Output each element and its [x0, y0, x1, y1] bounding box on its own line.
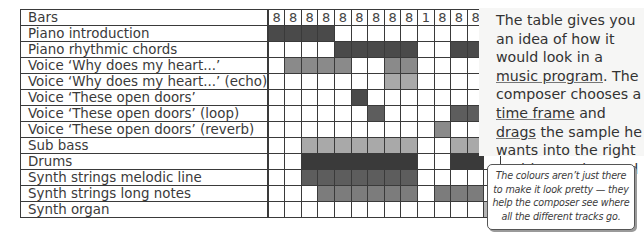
header-row: Bars88888888818888 — [21, 10, 501, 26]
empty-cell — [335, 202, 352, 218]
empty-cell — [285, 154, 302, 170]
empty-cell — [401, 202, 418, 218]
track-label: Voice ‘These open doors’ (loop) — [21, 106, 269, 122]
empty-cell — [268, 42, 285, 58]
filled-cell — [451, 186, 468, 202]
empty-cell — [418, 106, 435, 122]
bar-length-header: 8 — [401, 10, 418, 26]
filled-cell — [351, 154, 368, 170]
filled-cell — [335, 58, 352, 74]
filled-cell — [384, 170, 401, 186]
empty-cell — [301, 202, 318, 218]
bars-header-label: Bars — [21, 10, 269, 26]
empty-cell — [268, 170, 285, 186]
empty-cell — [368, 122, 385, 138]
empty-cell — [434, 138, 451, 154]
track-row: Synth strings long notes — [21, 186, 501, 202]
empty-cell — [351, 122, 368, 138]
empty-cell — [351, 74, 368, 90]
empty-cell — [434, 202, 451, 218]
track-label: Piano rhythmic chords — [21, 42, 269, 58]
filled-cell — [318, 26, 335, 42]
empty-cell — [268, 90, 285, 106]
empty-cell — [401, 106, 418, 122]
track-label: Synth strings melodic line — [21, 170, 269, 186]
empty-cell — [368, 58, 385, 74]
filled-cell — [318, 154, 335, 170]
empty-cell — [335, 74, 352, 90]
empty-cell — [301, 106, 318, 122]
filled-cell — [335, 138, 352, 154]
track-row: Drums — [21, 154, 501, 170]
filled-cell — [318, 138, 335, 154]
empty-cell — [467, 202, 484, 218]
filled-cell — [301, 138, 318, 154]
filled-cell — [301, 58, 318, 74]
empty-cell — [451, 90, 468, 106]
empty-cell — [285, 90, 302, 106]
filled-cell — [368, 170, 385, 186]
track-label: Sub bass — [21, 138, 269, 154]
filled-cell — [401, 154, 418, 170]
empty-cell — [301, 122, 318, 138]
empty-cell — [434, 106, 451, 122]
bar-length-header: 8 — [451, 10, 468, 26]
empty-cell — [351, 106, 368, 122]
filled-cell — [368, 138, 385, 154]
empty-cell — [285, 106, 302, 122]
filled-cell — [318, 186, 335, 202]
empty-cell — [368, 26, 385, 42]
track-row: Synth organ — [21, 202, 501, 218]
glossary-term: time frame — [496, 105, 575, 121]
filled-cell — [351, 170, 368, 186]
bar-length-header: 8 — [351, 10, 368, 26]
filled-cell — [318, 170, 335, 186]
empty-cell — [335, 90, 352, 106]
empty-cell — [451, 170, 468, 186]
filled-cell — [467, 186, 484, 202]
empty-cell — [268, 106, 285, 122]
empty-cell — [434, 42, 451, 58]
empty-cell — [434, 154, 451, 170]
filled-cell — [368, 42, 385, 58]
empty-cell — [268, 122, 285, 138]
filled-cell — [384, 138, 401, 154]
track-label: Voice ‘These open doors’ — [21, 90, 269, 106]
filled-cell — [351, 42, 368, 58]
filled-cell — [401, 138, 418, 154]
tip-note-box: The colours aren’t just there to make it… — [487, 164, 635, 230]
filled-cell — [384, 42, 401, 58]
empty-cell — [285, 122, 302, 138]
empty-cell — [268, 202, 285, 218]
empty-cell — [434, 74, 451, 90]
empty-cell — [268, 154, 285, 170]
empty-cell — [384, 106, 401, 122]
track-label: Voice ‘Why does my heart...’ (echo) — [21, 74, 269, 90]
empty-cell — [451, 122, 468, 138]
empty-cell — [335, 106, 352, 122]
empty-cell — [418, 58, 435, 74]
filled-cell — [384, 186, 401, 202]
filled-cell — [268, 26, 285, 42]
empty-cell — [318, 42, 335, 58]
empty-cell — [418, 122, 435, 138]
filled-cell — [384, 58, 401, 74]
empty-cell — [418, 74, 435, 90]
filled-cell — [335, 42, 352, 58]
empty-cell — [434, 90, 451, 106]
empty-cell — [285, 186, 302, 202]
glossary-term: music program — [496, 68, 603, 84]
track-row: Voice ‘These open doors’ — [21, 90, 501, 106]
empty-cell — [351, 26, 368, 42]
track-row: Synth strings melodic line — [21, 170, 501, 186]
filled-cell — [351, 186, 368, 202]
filled-cell — [401, 58, 418, 74]
track-row: Sub bass — [21, 138, 501, 154]
empty-cell — [418, 202, 435, 218]
empty-cell — [401, 90, 418, 106]
empty-cell — [285, 42, 302, 58]
empty-cell — [418, 90, 435, 106]
filled-cell — [301, 26, 318, 42]
track-row: Voice ‘These open doors’ (loop) — [21, 106, 501, 122]
filled-cell — [384, 154, 401, 170]
